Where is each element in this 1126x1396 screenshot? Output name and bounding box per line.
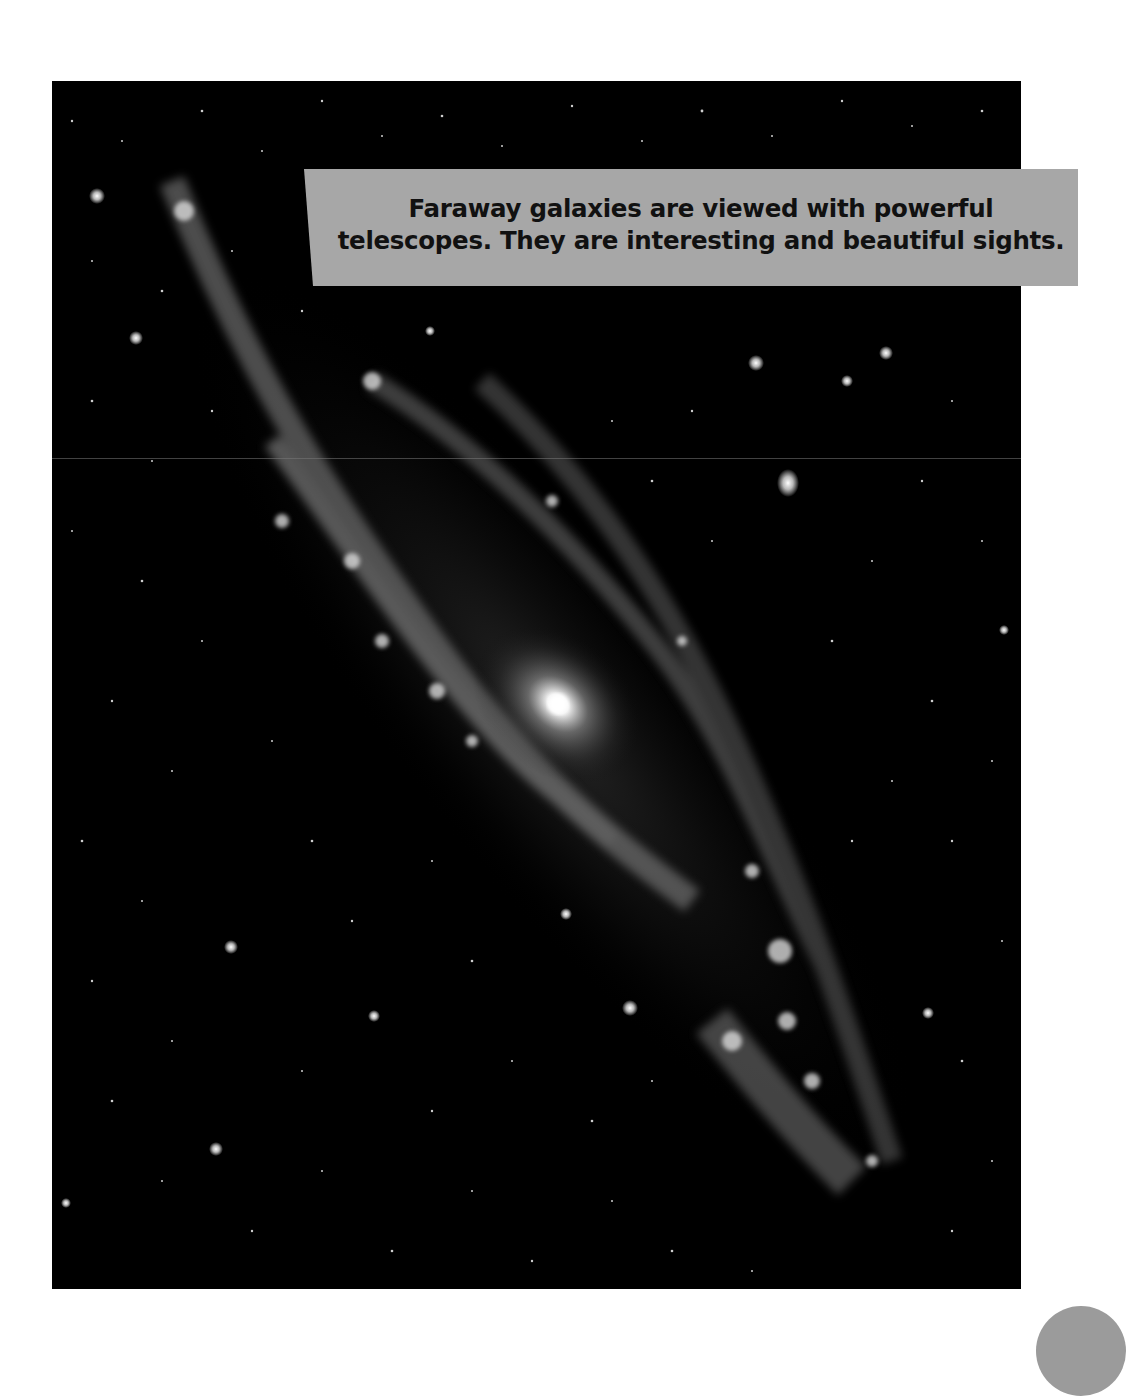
caption-line-2: telescopes. They are interesting and bea… <box>324 225 1078 257</box>
caption-line-1: Faraway galaxies are viewed with powerfu… <box>324 193 1078 225</box>
caption-banner: Faraway galaxies are viewed with powerfu… <box>304 169 1078 286</box>
page-seam-line <box>52 458 1021 459</box>
page-number-tab <box>1036 1306 1126 1396</box>
